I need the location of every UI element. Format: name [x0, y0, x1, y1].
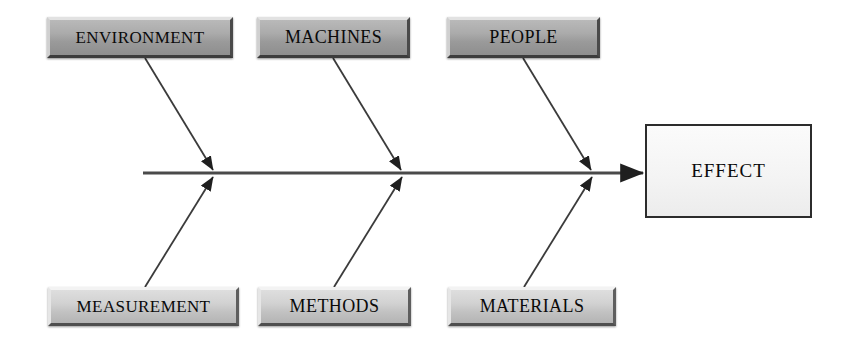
fishbone-diagram: ENVIRONMENTMACHINESPEOPLEMEASUREMENTMETH… — [0, 0, 858, 346]
rib-methods — [334, 177, 402, 287]
rib-measurement — [145, 177, 213, 287]
effect-box[interactable]: EFFECT — [645, 124, 812, 218]
cause-label: MATERIALS — [480, 296, 585, 317]
cause-box-methods[interactable]: METHODS — [258, 287, 411, 326]
cause-box-people[interactable]: PEOPLE — [447, 17, 600, 58]
rib-environment — [145, 58, 213, 170]
cause-label: MACHINES — [285, 27, 382, 48]
effect-label: EFFECT — [691, 160, 766, 182]
cause-label: PEOPLE — [489, 27, 557, 48]
cause-label: METHODS — [290, 296, 380, 317]
rib-people — [523, 58, 591, 170]
cause-box-machines[interactable]: MACHINES — [257, 17, 410, 58]
cause-box-materials[interactable]: MATERIALS — [448, 287, 616, 326]
cause-box-environment[interactable]: ENVIRONMENT — [47, 17, 233, 58]
rib-lines — [145, 58, 592, 287]
cause-label: ENVIRONMENT — [75, 28, 204, 48]
rib-materials — [524, 177, 592, 287]
rib-machines — [333, 58, 401, 170]
cause-box-measurement[interactable]: MEASUREMENT — [48, 287, 239, 326]
cause-label: MEASUREMENT — [77, 297, 211, 317]
